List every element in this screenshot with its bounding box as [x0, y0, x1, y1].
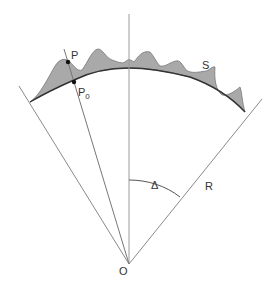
label-P0-main: P	[78, 86, 85, 98]
point-P	[66, 60, 70, 64]
label-Delta: Δ	[151, 179, 159, 191]
point-P0	[72, 80, 76, 84]
label-P0-subscript: 0	[85, 92, 90, 101]
label-S: S	[202, 59, 209, 71]
right-boundary-radius-R	[129, 99, 262, 264]
label-O: O	[119, 265, 128, 277]
left-boundary-radius	[19, 86, 129, 264]
label-R: R	[205, 180, 213, 192]
surface-geometry-diagram: P P0 S R Δ O	[0, 0, 269, 289]
label-P: P	[71, 49, 78, 61]
surface-profile-region	[30, 49, 245, 112]
label-P0: P0	[78, 86, 90, 101]
